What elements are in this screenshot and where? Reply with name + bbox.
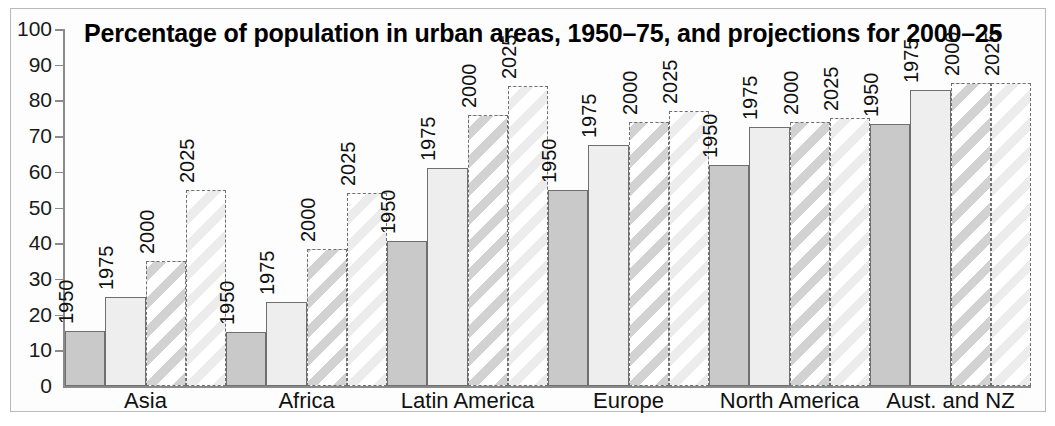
y-tick-label: 100 bbox=[6, 18, 52, 39]
bar-value-label: 1950 bbox=[378, 190, 398, 235]
bar-europe-1950: 1950 bbox=[548, 190, 588, 386]
bar-group: 1950197520002025 bbox=[65, 29, 226, 386]
bar-north-america-2025: 2025 bbox=[830, 118, 870, 386]
y-tick-label: 30 bbox=[6, 268, 52, 289]
bar-group: 1950197520002025 bbox=[387, 29, 548, 386]
bar-value-label: 1950 bbox=[700, 113, 720, 158]
bar-north-america-1950: 1950 bbox=[709, 165, 749, 386]
bar-value-label: 2000 bbox=[620, 70, 640, 115]
bar-aust-and-nz-2000: 2000 bbox=[951, 83, 991, 386]
bar-value-label: 2025 bbox=[177, 138, 197, 183]
y-axis-labels: 1009080706050403020100 bbox=[0, 0, 52, 426]
bar-latin-america-2000: 2000 bbox=[468, 115, 508, 386]
bar-north-america-2000: 2000 bbox=[790, 122, 830, 386]
bar-aust-and-nz-2025: 2025 bbox=[991, 83, 1031, 386]
bar-value-label: 1950 bbox=[217, 280, 237, 325]
y-tick-label: 40 bbox=[6, 232, 52, 253]
bar-africa-1950: 1950 bbox=[226, 332, 266, 386]
bar-value-label: 2025 bbox=[821, 67, 841, 112]
bar-latin-america-2025: 2025 bbox=[508, 86, 548, 386]
bar-value-label: 2025 bbox=[499, 35, 519, 80]
y-tick-label: 20 bbox=[6, 304, 52, 325]
bar-value-label: 2000 bbox=[942, 31, 962, 76]
bar-asia-1950: 1950 bbox=[65, 331, 105, 386]
y-tick-label: 50 bbox=[6, 197, 52, 218]
category-label-latin-america: Latin America bbox=[387, 390, 548, 412]
y-tick-label: 10 bbox=[6, 339, 52, 360]
bar-value-label: 1975 bbox=[740, 76, 760, 121]
bar-aust-and-nz-1950: 1950 bbox=[870, 124, 910, 386]
bar-latin-america-1975: 1975 bbox=[427, 168, 467, 386]
bar-value-label: 1975 bbox=[96, 245, 116, 290]
bar-value-label: 1975 bbox=[901, 38, 921, 83]
bar-aust-and-nz-1975: 1975 bbox=[910, 90, 950, 386]
bar-europe-1975: 1975 bbox=[588, 145, 628, 386]
bar-group: 1950197520002025 bbox=[548, 29, 709, 386]
bar-value-label: 2000 bbox=[298, 197, 318, 242]
bar-europe-2000: 2000 bbox=[629, 122, 669, 386]
bar-value-label: 1975 bbox=[579, 94, 599, 139]
bar-value-label: 1950 bbox=[861, 72, 881, 117]
y-tick-label: 60 bbox=[6, 161, 52, 182]
bar-value-label: 1950 bbox=[56, 280, 76, 325]
bar-value-label: 1950 bbox=[539, 138, 559, 183]
bar-value-label: 1975 bbox=[257, 251, 277, 296]
category-label-africa: Africa bbox=[226, 390, 387, 412]
bar-value-label: 2000 bbox=[781, 70, 801, 115]
bar-asia-2000: 2000 bbox=[146, 261, 186, 386]
bar-africa-1975: 1975 bbox=[266, 302, 306, 386]
bar-value-label: 2025 bbox=[982, 31, 1002, 76]
y-tick-label: 80 bbox=[6, 89, 52, 110]
y-tick-label: 90 bbox=[6, 54, 52, 75]
bar-value-label: 2000 bbox=[137, 210, 157, 255]
category-label-asia: Asia bbox=[65, 390, 226, 412]
category-label-north-america: North America bbox=[709, 390, 870, 412]
y-tick-label: 70 bbox=[6, 125, 52, 146]
category-label-aust-and-nz: Aust. and NZ bbox=[870, 390, 1031, 412]
bar-value-label: 2000 bbox=[459, 63, 479, 108]
y-tick-label: 0 bbox=[6, 375, 52, 396]
bar-north-america-1975: 1975 bbox=[749, 127, 789, 386]
bar-value-label: 1975 bbox=[418, 117, 438, 162]
bar-africa-2000: 2000 bbox=[307, 249, 347, 386]
bar-value-label: 2025 bbox=[660, 60, 680, 105]
chart-screenshot: Percentage of population in urban areas,… bbox=[0, 0, 1055, 426]
bar-asia-1975: 1975 bbox=[105, 297, 145, 386]
bar-group: 1950197520002025 bbox=[870, 29, 1031, 386]
plot-area: 1950197520002025195019752000202519501975… bbox=[63, 29, 1031, 386]
bar-group: 1950197520002025 bbox=[709, 29, 870, 386]
category-label-europe: Europe bbox=[548, 390, 709, 412]
bar-group: 1950197520002025 bbox=[226, 29, 387, 386]
bar-value-label: 2025 bbox=[338, 142, 358, 187]
bar-latin-america-1950: 1950 bbox=[387, 241, 427, 386]
